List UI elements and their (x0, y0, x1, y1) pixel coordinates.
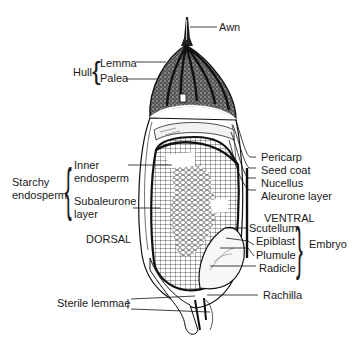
label-embryo: Embryo (309, 238, 347, 250)
label-pericarp: Pericarp (261, 151, 302, 163)
label-epiblast: Epiblast (256, 235, 295, 247)
label-palea: Palea (100, 72, 128, 84)
awn-shape (181, 17, 193, 46)
label-awn: Awn (219, 21, 240, 33)
rice-grain-diagram: Awn Hull { Lemma Palea Pericarp Seed coa… (0, 0, 355, 341)
label-inner-endosperm-line2: endosperm (74, 172, 129, 184)
label-subaleurone-line2: layer (74, 208, 98, 220)
label-plumule: Plumule (256, 249, 296, 261)
label-starchy-endosperm-line2: endosperm (12, 189, 67, 201)
hull-shape (150, 45, 236, 120)
label-seed-coat: Seed coat (261, 164, 311, 176)
label-nucellus: Nucellus (261, 177, 303, 189)
starchy-endosperm-brace: { (65, 160, 72, 218)
label-dorsal: DORSAL (86, 233, 131, 245)
label-aleurone-layer: Aleurone layer (261, 190, 332, 202)
label-rachilla: Rachilla (263, 289, 302, 301)
label-sterile-lemmae: Sterile lemmae (57, 297, 130, 309)
embryo-brace: } (296, 222, 303, 274)
label-hull: Hull (73, 66, 92, 78)
label-inner-endosperm-line1: Inner (74, 159, 99, 171)
label-radicle: Radicle (259, 262, 296, 274)
label-starchy-endosperm-line1: Starchy (12, 176, 49, 188)
label-scutellum: Scutellum (249, 222, 297, 234)
label-lemma: Lemma (100, 57, 137, 69)
label-subaleurone-line1: Subaleurone (74, 195, 136, 207)
